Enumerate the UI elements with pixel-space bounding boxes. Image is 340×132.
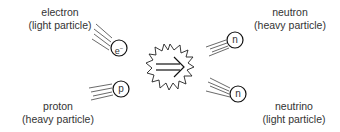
- neutrino-symbol: n: [232, 87, 244, 100]
- electron-charge: −: [120, 45, 124, 51]
- neutron-symbol: n: [229, 33, 241, 46]
- electron-type: (light particle): [20, 19, 100, 32]
- neutron-name: neutron: [248, 6, 332, 19]
- proton-name: proton: [16, 100, 100, 113]
- neutron-motion-lines: [206, 40, 229, 56]
- starburst-icon: [146, 44, 194, 90]
- proton-motion-lines: [89, 84, 113, 100]
- electron-symbol: e−: [113, 42, 125, 58]
- proton-symbol: p: [115, 82, 127, 95]
- neutron-label: neutron (heavy particle): [248, 6, 332, 32]
- proton-label: proton (heavy particle): [16, 100, 100, 126]
- neutrino-type: (light particle): [252, 113, 336, 126]
- neutrino-label: neutrino (light particle): [252, 100, 336, 126]
- electron-name: electron: [20, 6, 100, 19]
- proton-type: (heavy particle): [16, 113, 100, 126]
- neutron-type: (heavy particle): [248, 19, 332, 32]
- neutrino-motion-lines: [206, 78, 230, 97]
- neutrino-name: neutrino: [252, 100, 336, 113]
- electron-label: electron (light particle): [20, 6, 100, 32]
